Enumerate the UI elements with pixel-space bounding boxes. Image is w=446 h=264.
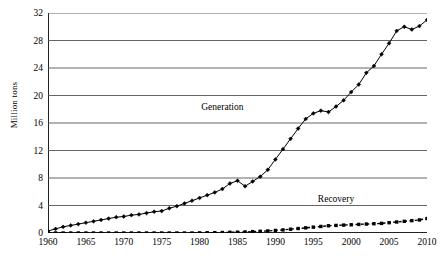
y-tick-label: 8 <box>3 173 43 183</box>
data-point <box>213 191 217 195</box>
data-point <box>92 219 96 223</box>
series-label-generation: Generation <box>201 102 243 112</box>
chart-container: Million tons 048121620242832196019651970… <box>0 0 446 264</box>
data-point <box>312 225 315 228</box>
data-point <box>137 231 140 233</box>
data-point <box>259 230 262 233</box>
data-point <box>395 220 398 223</box>
data-point <box>403 220 406 223</box>
x-tick-label: 1975 <box>142 237 182 247</box>
data-point <box>221 231 224 233</box>
data-point <box>145 211 149 215</box>
data-point <box>122 231 125 233</box>
data-point <box>365 222 368 225</box>
data-point <box>54 227 58 231</box>
data-point <box>99 218 103 222</box>
data-point <box>183 231 186 233</box>
data-point <box>160 231 163 233</box>
series-label-recovery: Recovery <box>318 194 354 204</box>
data-point <box>251 230 254 233</box>
data-point <box>198 231 201 233</box>
data-point <box>274 229 277 232</box>
data-point <box>289 228 292 231</box>
data-point <box>137 213 141 217</box>
data-point <box>304 226 307 229</box>
x-tick-label: 2000 <box>331 237 371 247</box>
data-point <box>350 223 353 226</box>
data-point <box>175 204 179 208</box>
data-point <box>69 224 73 228</box>
data-point <box>99 231 102 233</box>
data-point <box>76 222 80 226</box>
plot-area: 0481216202428321960196519701975198019851… <box>48 13 427 233</box>
data-point <box>168 231 171 233</box>
data-point <box>319 225 322 228</box>
data-point <box>92 231 95 233</box>
data-point <box>213 231 216 233</box>
x-tick-label: 2005 <box>369 237 409 247</box>
y-tick-label: 24 <box>3 63 43 73</box>
data-point <box>160 209 164 213</box>
data-point <box>107 231 110 233</box>
data-point <box>228 231 231 233</box>
data-point <box>205 231 208 233</box>
data-point <box>418 218 421 221</box>
data-point <box>152 210 156 214</box>
x-tick-label: 1990 <box>255 237 295 247</box>
y-tick-label: 4 <box>3 201 43 211</box>
data-point <box>296 227 299 230</box>
x-tick-label: 1965 <box>66 237 106 247</box>
data-point <box>183 202 187 206</box>
data-point <box>129 213 133 217</box>
data-point <box>48 231 50 233</box>
data-point <box>130 231 133 233</box>
data-point <box>84 221 88 225</box>
data-point <box>410 28 414 32</box>
y-axis-title: Million tons <box>9 65 19 145</box>
data-point <box>107 217 111 221</box>
y-tick-label: 12 <box>3 146 43 156</box>
data-point <box>175 231 178 233</box>
data-point <box>69 231 72 233</box>
y-tick-label: 16 <box>3 118 43 128</box>
data-point <box>198 196 202 200</box>
y-tick-label: 20 <box>3 91 43 101</box>
x-tick-label: 1980 <box>180 237 220 247</box>
data-point <box>342 223 345 226</box>
data-point <box>357 223 360 226</box>
chart-svg <box>48 13 427 233</box>
data-point <box>167 206 171 210</box>
data-point <box>410 219 413 222</box>
data-point <box>190 199 194 203</box>
data-point <box>281 228 284 231</box>
x-tick-label: 2010 <box>407 237 446 247</box>
data-point <box>387 221 390 224</box>
data-point <box>372 222 375 225</box>
data-point <box>236 230 239 233</box>
x-tick-label: 1985 <box>218 237 258 247</box>
data-point <box>84 231 87 233</box>
data-point <box>61 225 65 229</box>
data-point <box>205 193 209 197</box>
data-point <box>243 230 246 233</box>
data-point <box>115 231 118 233</box>
x-tick-label: 1960 <box>28 237 68 247</box>
data-point <box>54 231 57 233</box>
data-point <box>266 229 269 232</box>
data-point <box>145 231 148 233</box>
data-point <box>77 231 80 233</box>
data-point <box>122 215 126 219</box>
data-point <box>152 231 155 233</box>
series-line-generation <box>48 20 427 231</box>
data-point <box>190 231 193 233</box>
data-point <box>402 25 406 29</box>
x-tick-label: 1995 <box>293 237 333 247</box>
data-point <box>319 109 323 113</box>
data-point <box>114 215 118 219</box>
data-point <box>425 217 427 220</box>
y-tick-label: 28 <box>3 36 43 46</box>
y-tick-label: 32 <box>3 8 43 18</box>
x-tick-label: 1970 <box>104 237 144 247</box>
data-point <box>380 222 383 225</box>
data-point <box>327 224 330 227</box>
